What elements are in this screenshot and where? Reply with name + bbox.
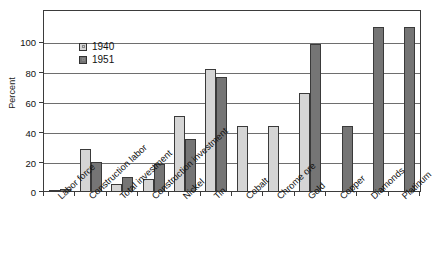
y-tickmark [39, 102, 43, 103]
bar-group [326, 11, 357, 192]
bar-group [389, 11, 420, 192]
bar-group [263, 11, 294, 192]
x-axis-labels: Labor forceConstruction laborTotal inves… [43, 194, 421, 277]
y-tickmark [39, 72, 43, 73]
legend-label: 1951 [92, 55, 114, 65]
y-tick-label: 100 [10, 38, 36, 47]
legend-swatch-icon [79, 56, 87, 64]
y-tickmark [39, 42, 43, 43]
y-tickmark [39, 132, 43, 133]
y-tick-label: 40 [10, 129, 36, 138]
bar [205, 69, 216, 192]
y-tick-label: 20 [10, 159, 36, 168]
bar-group [232, 11, 263, 192]
bar [237, 126, 248, 192]
y-axis-tick-labels: 100 80 60 40 20 0 [8, 0, 36, 277]
y-tickmark [39, 162, 43, 163]
bar-group [201, 11, 232, 192]
y-tick-label: 80 [10, 69, 36, 78]
legend-label: 1940 [92, 42, 114, 52]
bar [404, 27, 415, 192]
bar-group [357, 11, 388, 192]
legend-item-1951: 1951 [79, 53, 114, 66]
y-tick-label: 0 [10, 188, 36, 197]
y-tick-label: 60 [10, 99, 36, 108]
legend: 1940 1951 [76, 38, 118, 68]
legend-swatch-icon [79, 43, 87, 51]
bar-group [44, 11, 75, 192]
legend-item-1940: 1940 [79, 40, 114, 53]
bar [373, 27, 384, 192]
